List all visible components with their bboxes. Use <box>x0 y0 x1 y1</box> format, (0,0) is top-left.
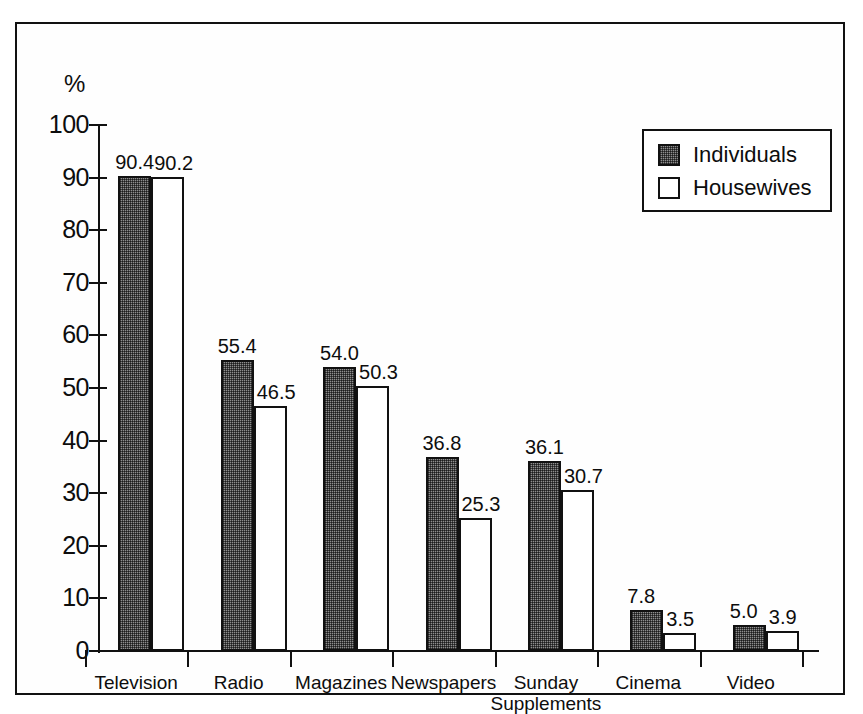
bar-group: 55.446.5 <box>221 125 287 651</box>
y-axis-tick-label: 20 <box>43 533 89 558</box>
bar-value-label: 3.5 <box>666 609 694 629</box>
bar-value-label: 90.2 <box>154 153 193 173</box>
bar-value-label: 25.3 <box>462 494 501 514</box>
x-axis-tick <box>392 650 394 667</box>
y-axis-tick-label: 100 <box>43 112 89 137</box>
bar-group: 36.825.3 <box>426 125 492 651</box>
y-axis-tick-label: 90 <box>43 165 89 190</box>
x-axis-tick <box>802 650 804 667</box>
bar-housewives <box>356 386 389 651</box>
bar-individuals <box>118 176 151 652</box>
x-axis-tick <box>85 650 87 667</box>
legend-item-individuals: Individuals <box>658 141 797 169</box>
y-axis-unit-label: % <box>64 72 85 96</box>
bar-value-label: 55.4 <box>218 336 257 356</box>
bar-group: 90.490.2 <box>118 125 184 651</box>
bar-value-label: 54.0 <box>320 343 359 363</box>
bar-individuals <box>528 461 561 651</box>
y-axis-tick-label: 30 <box>43 480 89 505</box>
legend-label-individuals: Individuals <box>693 144 797 166</box>
x-axis-tick <box>597 650 599 667</box>
bar-value-label: 50.3 <box>359 362 398 382</box>
bar-value-label: 5.0 <box>730 601 758 621</box>
y-axis-tick-label: 60 <box>43 322 89 347</box>
bar-housewives <box>561 490 594 651</box>
x-axis-category-label: Video <box>671 672 831 693</box>
legend-label-housewives: Housewives <box>693 177 812 199</box>
bar-individuals <box>426 457 459 651</box>
bar-housewives <box>663 633 696 651</box>
bar-value-label: 90.4 <box>115 152 154 172</box>
x-axis-tick <box>495 650 497 667</box>
legend-item-housewives: Housewives <box>658 174 812 202</box>
bar-group: 54.050.3 <box>323 125 389 651</box>
bar-housewives <box>766 631 799 652</box>
legend-swatch-housewives-icon <box>658 177 680 199</box>
bar-individuals <box>323 367 356 651</box>
bar-housewives <box>254 406 287 651</box>
chart-frame: % 1009080706050403020100 90.490.255.446.… <box>15 22 845 695</box>
bar-value-label: 30.7 <box>564 466 603 486</box>
y-axis-labels: 1009080706050403020100 <box>31 125 89 651</box>
bar-value-label: 7.8 <box>627 586 655 606</box>
bar-value-label: 36.1 <box>525 437 564 457</box>
bar-individuals <box>630 610 663 651</box>
y-axis-tick-label: 70 <box>43 270 89 295</box>
x-axis-tick <box>290 650 292 667</box>
x-axis-tick <box>700 650 702 667</box>
legend-swatch-individuals-icon <box>658 144 680 166</box>
bar-value-label: 46.5 <box>257 382 296 402</box>
y-axis-tick-label: 40 <box>43 428 89 453</box>
y-axis-tick-label: 50 <box>43 375 89 400</box>
bar-group: 36.130.7 <box>528 125 594 651</box>
bar-housewives <box>459 518 492 651</box>
bar-value-label: 36.8 <box>423 433 462 453</box>
y-axis-tick-label: 10 <box>43 585 89 610</box>
y-axis-tick-label: 80 <box>43 217 89 242</box>
chart-legend: Individuals Housewives <box>642 129 832 212</box>
x-axis-tick <box>187 650 189 667</box>
y-axis-tick-label: 0 <box>43 638 89 663</box>
bar-individuals <box>733 625 766 651</box>
bar-housewives <box>151 177 184 651</box>
bar-individuals <box>221 360 254 651</box>
bar-value-label: 3.9 <box>769 607 797 627</box>
